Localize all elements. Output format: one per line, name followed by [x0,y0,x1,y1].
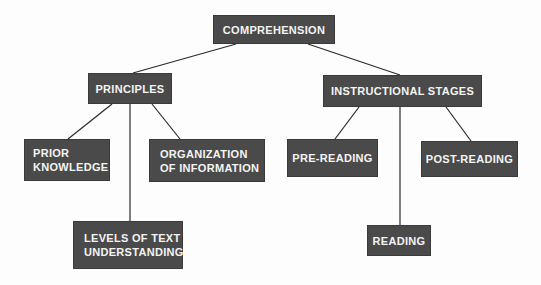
root-node-comprehension: COMPREHENSION [213,15,335,44]
node-reading: READING [367,225,431,256]
node-label: READING [373,234,426,248]
node-pre-reading: PRE-READING [287,139,378,177]
node-label: PRINCIPLES [95,82,164,96]
node-label: PRE-READING [292,151,372,165]
node-label: POST-READING [426,152,513,166]
node-prior-knowledge: PRIOR KNOWLEDGE [24,139,110,181]
node-label: INSTRUCTIONAL STAGES [331,84,474,98]
node-principles: PRINCIPLES [88,73,172,104]
node-label: LEVELS OF TEXT UNDERSTANDING [84,231,184,259]
node-label: COMPREHENSION [223,23,325,37]
node-label: ORGANIZATION OF INFORMATION [160,147,259,175]
node-instructional-stages: INSTRUCTIONAL STAGES [323,75,482,107]
node-levels-of-text-understanding: LEVELS OF TEXT UNDERSTANDING [73,221,183,269]
node-organization-of-information: ORGANIZATION OF INFORMATION [149,139,265,182]
node-label: PRIOR KNOWLEDGE [33,146,108,174]
node-post-reading: POST-READING [421,141,518,177]
